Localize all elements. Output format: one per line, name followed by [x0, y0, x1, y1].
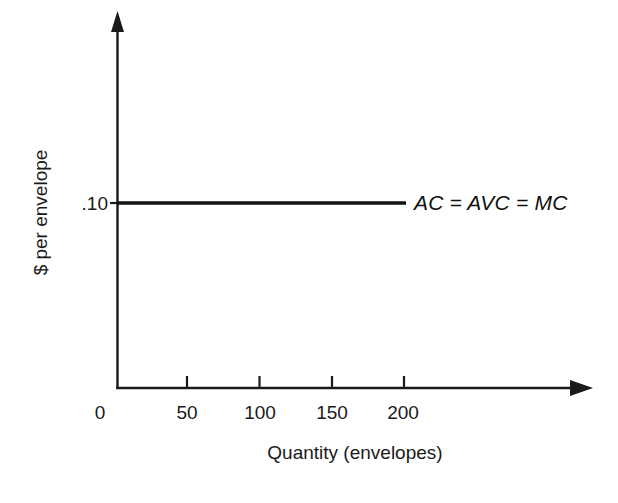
x-axis-title: Quantity (envelopes): [175, 443, 535, 462]
y-axis-tick-label-010: .10: [48, 194, 108, 213]
x-axis-tick-label-200: 200: [373, 403, 433, 422]
x-axis-tick-label-0: 0: [70, 403, 130, 422]
x-axis-tick-label-100: 100: [230, 403, 290, 422]
x-axis-ticks: [187, 376, 404, 388]
plot-area: [0, 0, 618, 503]
x-axis-tick-label-150: 150: [302, 403, 362, 422]
cost-curve-figure: .10 0 50 100 150 200 Quantity (envelopes…: [0, 0, 618, 503]
x-axis-arrowhead: [570, 380, 593, 396]
cost-curve-annotation: AC = AVC = MC: [414, 192, 568, 213]
x-axis-tick-label-50: 50: [157, 403, 217, 422]
y-axis-title: $ per envelope: [31, 83, 50, 343]
